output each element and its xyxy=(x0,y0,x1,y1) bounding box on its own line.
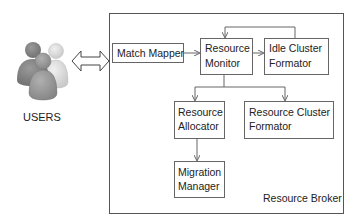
resource-allocator-box[interactable]: Resource Allocator xyxy=(175,102,225,139)
diagram: USERS Resource Broker Match Mapper Resou… xyxy=(0,0,357,224)
resource-broker-label: Resource Broker xyxy=(263,192,342,204)
migration-manager-label-line1: Migration xyxy=(178,166,221,178)
arrow-idle-to-monitor-feedback xyxy=(225,27,295,38)
migration-manager-box[interactable]: Migration Manager xyxy=(175,162,225,198)
resource-cluster-formator-label-line2: Formator xyxy=(249,120,292,132)
resource-monitor-label-line2: Monitor xyxy=(205,57,241,69)
resource-cluster-formator-label-line1: Resource Cluster xyxy=(249,106,331,118)
resource-monitor-box[interactable]: Resource Monitor xyxy=(201,39,253,75)
users-group-icon xyxy=(17,42,68,100)
idle-cluster-formator-box[interactable]: Idle Cluster Formator xyxy=(265,39,329,75)
match-mapper-label: Match Mapper xyxy=(117,47,185,59)
resource-cluster-formator-box[interactable]: Resource Cluster Formator xyxy=(245,102,334,139)
resource-allocator-label-line1: Resource xyxy=(178,106,223,118)
migration-manager-label-line2: Manager xyxy=(178,180,220,192)
idle-cluster-formator-label-line2: Formator xyxy=(269,57,312,69)
match-mapper-box[interactable]: Match Mapper xyxy=(113,44,185,63)
idle-cluster-formator-label-line1: Idle Cluster xyxy=(269,42,323,54)
resource-allocator-label-line2: Allocator xyxy=(178,120,219,132)
arrow-monitor-to-cluster-formator xyxy=(224,87,285,100)
arrow-monitor-to-allocator xyxy=(195,75,224,100)
double-arrow-icon xyxy=(72,51,109,71)
users-label: USERS xyxy=(23,111,61,123)
resource-monitor-label-line1: Resource xyxy=(205,42,250,54)
